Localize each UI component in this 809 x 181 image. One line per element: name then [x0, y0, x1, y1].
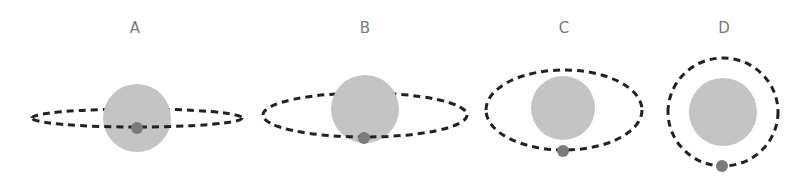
panel-label: C [559, 19, 569, 37]
star [689, 78, 757, 146]
panel-label: A [130, 19, 141, 37]
star [531, 76, 595, 140]
star [103, 84, 171, 152]
panel-d: D [668, 19, 778, 172]
panel-label: B [360, 19, 370, 37]
planet [557, 145, 569, 157]
panel-label: D [718, 19, 730, 37]
planet [716, 160, 728, 172]
panel-a: A [32, 19, 242, 152]
panel-b: B [263, 19, 467, 144]
panel-c: C [486, 19, 642, 157]
planet [131, 122, 143, 134]
orbit-inclination-diagram: ABCD [0, 0, 809, 181]
planet [358, 132, 370, 144]
